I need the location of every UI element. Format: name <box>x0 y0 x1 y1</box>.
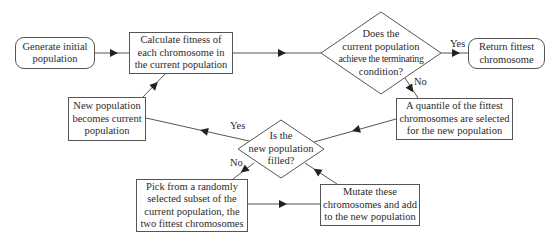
node-text-line: Does the <box>338 28 423 41</box>
edge-label-filled-no: No <box>230 157 243 168</box>
arrowhead-icon <box>278 49 286 57</box>
node-text-line: filled? <box>248 155 313 168</box>
node-text-line: the current population <box>135 59 228 72</box>
node-pick-fittest: Pick from a randomly selected subset of … <box>136 179 248 232</box>
arrowhead-icon <box>351 125 361 135</box>
node-return-fittest: Return fittest chromosome <box>468 38 545 69</box>
node-calculate-fitness: Calculate fitness of each chromosome in … <box>129 32 233 74</box>
node-text-line: current population <box>338 41 423 54</box>
node-text-line: two fittest chromosomes <box>140 218 243 231</box>
node-text-line: Is the <box>248 130 313 143</box>
node-text-line: new population <box>248 143 313 156</box>
node-text-line: becomes current <box>72 113 141 126</box>
node-text-line: New population <box>72 100 141 113</box>
node-quantile-selected: A quantile of the fittest chromosomes ar… <box>396 98 513 140</box>
edge-label-terminate-no: No <box>414 76 427 87</box>
node-text-line: for the new population <box>399 125 509 138</box>
arrowhead-icon <box>452 49 460 57</box>
node-text-line: population <box>22 53 87 66</box>
node-text-line: chromosome <box>479 54 534 67</box>
edge-label-filled-yes: Yes <box>230 120 245 131</box>
node-text-line: Pick from a randomly <box>140 181 243 194</box>
node-text-line: Mutate these <box>323 186 417 199</box>
node-new-population-current: New population becomes current populatio… <box>68 97 146 141</box>
node-text-line: to the new population <box>323 211 417 224</box>
arrowhead-icon <box>199 126 209 136</box>
node-text-line: condition? <box>338 66 423 79</box>
node-text-line: current population, the <box>140 206 243 219</box>
node-mutate-add: Mutate these chromosomes and add to the … <box>320 184 420 226</box>
node-text-line: population <box>72 125 141 138</box>
node-text-line: Calculate fitness of <box>135 34 228 47</box>
node-text-line: Generate initial <box>22 41 87 54</box>
node-text-line: chromosomes are selected <box>399 113 509 126</box>
node-text-line: chromosomes and add <box>323 199 417 212</box>
arrowhead-icon <box>279 200 287 208</box>
node-text-line: achieve the terminating <box>338 53 423 66</box>
node-text-line: A quantile of the fittest <box>399 100 509 113</box>
node-text-line: selected subset of the <box>140 193 243 206</box>
node-text-line: each chromosome in <box>135 47 228 60</box>
edge-label-terminate-yes: Yes <box>450 38 465 49</box>
node-population-filled: Is the new population filled? <box>238 120 324 178</box>
arrowhead-icon <box>110 49 118 57</box>
flowchart: Generate initial population Calculate fi… <box>0 0 560 247</box>
node-text-line: Return fittest <box>479 41 534 54</box>
node-generate-initial-population: Generate initial population <box>15 37 95 69</box>
